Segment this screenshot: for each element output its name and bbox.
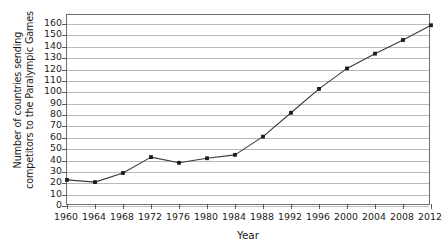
data-point-marker	[429, 23, 433, 27]
x-tick-mark	[235, 204, 236, 209]
x-tick-mark	[95, 204, 96, 209]
x-tick-mark	[403, 204, 404, 209]
data-point-marker	[401, 38, 405, 42]
data-series-line	[67, 15, 431, 206]
data-point-marker	[233, 153, 237, 157]
data-point-marker	[317, 87, 321, 91]
data-point-marker	[149, 155, 153, 159]
x-tick-mark	[207, 204, 208, 209]
data-point-marker	[261, 135, 265, 139]
y-tick-mark	[62, 126, 67, 127]
x-tick-mark	[263, 204, 264, 209]
x-tick-label: 2012	[406, 211, 444, 222]
y-axis-tick-labels: 0102030405060708090100110120130140150160	[28, 14, 62, 205]
y-tick-label: 30	[28, 166, 62, 175]
y-tick-label: 150	[28, 30, 62, 39]
y-tick-mark	[62, 47, 67, 48]
x-tick-mark	[179, 204, 180, 209]
data-point-marker	[289, 111, 293, 115]
x-axis-title: Year	[66, 229, 430, 241]
y-tick-label: 110	[28, 75, 62, 84]
y-tick-label: 120	[28, 64, 62, 73]
data-point-marker	[373, 52, 377, 56]
y-tick-mark	[62, 183, 67, 184]
y-tick-mark	[62, 58, 67, 59]
data-point-marker	[65, 178, 69, 182]
data-point-marker	[345, 67, 349, 71]
y-tick-mark	[62, 24, 67, 25]
y-tick-mark	[62, 149, 67, 150]
x-tick-mark	[123, 204, 124, 209]
y-tick-mark	[62, 172, 67, 173]
x-tick-mark	[375, 204, 376, 209]
x-tick-mark	[319, 204, 320, 209]
data-point-marker	[121, 171, 125, 175]
y-tick-label: 60	[28, 132, 62, 141]
y-tick-label: 0	[28, 200, 62, 209]
y-tick-label: 70	[28, 121, 62, 130]
y-tick-label: 100	[28, 87, 62, 96]
line-chart-figure: Number of countries sending competitors …	[0, 0, 444, 248]
y-tick-label: 140	[28, 41, 62, 50]
y-tick-mark	[62, 161, 67, 162]
y-tick-label: 20	[28, 178, 62, 187]
x-tick-mark	[67, 204, 68, 209]
x-axis-tick-labels: 1960196419681972197619801984198819921996…	[66, 211, 430, 225]
data-point-marker	[177, 161, 181, 165]
data-point-marker	[205, 156, 209, 160]
y-tick-mark	[62, 104, 67, 105]
y-tick-label: 90	[28, 98, 62, 107]
y-tick-mark	[62, 70, 67, 71]
y-axis-title-line-1: Number of countries sending	[12, 0, 24, 205]
y-tick-mark	[62, 35, 67, 36]
x-tick-mark	[347, 204, 348, 209]
x-tick-mark	[291, 204, 292, 209]
x-tick-mark	[151, 204, 152, 209]
y-tick-label: 80	[28, 109, 62, 118]
y-tick-label: 160	[28, 18, 62, 27]
y-tick-label: 130	[28, 52, 62, 61]
x-tick-mark	[431, 204, 432, 209]
y-tick-mark	[62, 195, 67, 196]
y-tick-label: 50	[28, 143, 62, 152]
y-tick-mark	[62, 92, 67, 93]
y-tick-mark	[62, 81, 67, 82]
y-tick-label: 40	[28, 155, 62, 164]
y-tick-mark	[62, 115, 67, 116]
series-polyline	[67, 25, 431, 182]
plot-area	[66, 14, 430, 205]
data-point-marker	[93, 180, 97, 184]
y-tick-label: 10	[28, 189, 62, 198]
y-tick-mark	[62, 138, 67, 139]
